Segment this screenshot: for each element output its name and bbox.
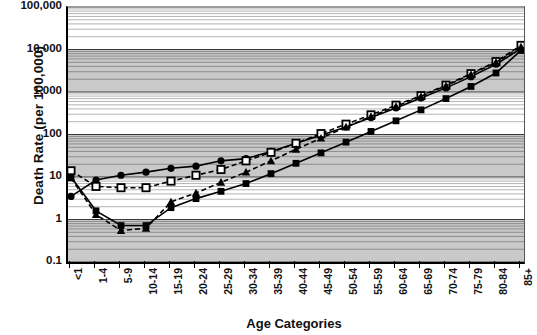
x-axis-tick-label: 30-34 (248, 268, 259, 295)
x-axis-tick (394, 261, 395, 268)
x-axis-tick (194, 261, 195, 268)
y-axis-tick-label: 0.1 (4, 255, 62, 267)
x-axis-tick-label: 60-64 (398, 268, 409, 295)
x-axis-tick (144, 261, 145, 268)
x-axis-tick (94, 261, 95, 268)
x-axis-tick (69, 261, 70, 268)
y-axis-tick-label: 1,000 (4, 85, 62, 97)
x-axis-tick (419, 261, 420, 268)
x-axis-tick (219, 261, 220, 268)
x-axis-tick (119, 261, 120, 268)
x-axis-tick-label: 70-74 (448, 268, 459, 295)
x-axis-tick-label: <1 (73, 268, 84, 280)
x-axis-tick-label: 65-69 (423, 268, 434, 295)
x-axis-tick-label: 50-54 (348, 268, 359, 295)
y-axis-tick-label: 100 (4, 128, 62, 140)
x-axis-tick-label: 80-84 (498, 268, 509, 295)
x-axis-tick-label: 75-79 (473, 268, 484, 295)
x-axis-tick (469, 261, 470, 268)
y-axis-tick-label: 100,000 (4, 0, 62, 12)
x-axis-tick (244, 261, 245, 268)
x-axis-tick (369, 261, 370, 268)
series-layer (68, 7, 524, 262)
x-axis-tick-label: 25-29 (223, 268, 234, 295)
y-axis-tick-labels: 100,00010,0001,0001001010.1 (0, 0, 62, 335)
x-axis-tick (294, 261, 295, 268)
x-axis-tick-label: 5-9 (123, 268, 134, 283)
x-axis-tick-label: 35-39 (273, 268, 284, 295)
plot-area (66, 6, 525, 264)
chart-container: Death Rate (per 100,000) 100,00010,0001,… (0, 0, 537, 335)
x-axis-tick-label: 85+ (523, 268, 534, 286)
x-axis-tick (269, 261, 270, 268)
y-axis-tick-label: 10 (4, 170, 62, 182)
x-axis-tick-labels: <11-45-910-1415-1920-2425-2930-3435-3940… (66, 268, 522, 314)
x-axis-title: Age Categories (66, 316, 522, 331)
x-axis-tick (494, 261, 495, 268)
x-axis-tick (319, 261, 320, 268)
x-axis-tick (519, 261, 520, 268)
x-axis-tick-label: 10-14 (148, 268, 159, 295)
x-axis-tick-label: 55-59 (373, 268, 384, 295)
x-axis-tick-label: 15-19 (173, 268, 184, 295)
x-axis-tick (344, 261, 345, 268)
x-axis-tick (444, 261, 445, 268)
y-axis-tick-label: 10,000 (4, 43, 62, 55)
x-axis-tick-label: 1-4 (98, 268, 109, 283)
x-axis-tick-label: 40-44 (298, 268, 309, 295)
y-axis-tick-label: 1 (4, 213, 62, 225)
x-axis-tick (169, 261, 170, 268)
x-axis-tick-label: 45-49 (323, 268, 334, 295)
x-axis-tick-label: 20-24 (198, 268, 209, 295)
